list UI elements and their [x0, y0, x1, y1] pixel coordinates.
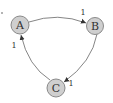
- node-a-label: A: [15, 19, 25, 32]
- edge-b-c: [64, 34, 97, 82]
- node-b: B: [87, 18, 104, 35]
- node-c-label: C: [52, 82, 60, 95]
- edge-c-a: [21, 35, 50, 80]
- graph-diagram: 1 1 1 A B C: [0, 0, 113, 103]
- node-c: C: [47, 79, 65, 97]
- edge-label-b-c: 1: [68, 79, 73, 88]
- node-b-label: B: [91, 20, 99, 33]
- edge-label-c-a: 1: [11, 41, 16, 50]
- node-a: A: [11, 16, 29, 34]
- edge-label-a-b: 1: [80, 8, 85, 17]
- stray-dot: [1, 12, 3, 14]
- edge-a-b: [29, 17, 86, 23]
